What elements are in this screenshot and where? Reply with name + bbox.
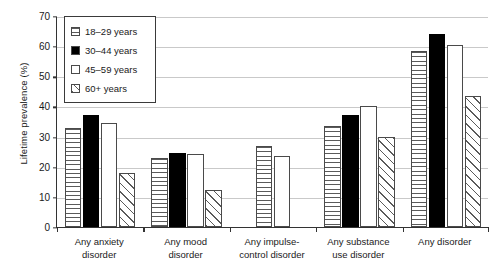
- legend-swatch-icon: [71, 46, 80, 55]
- y-tick-label: 0: [44, 223, 50, 233]
- bar: [119, 173, 136, 227]
- x-axis-label-line: Any anxiety: [56, 236, 142, 249]
- y-tick-label: 30: [39, 133, 50, 143]
- x-axis-labels: Any anxietydisorderAny mooddisorderAny i…: [56, 236, 488, 276]
- bar-chart: Lifetime prevalence (%) 010203040506070 …: [0, 0, 495, 276]
- x-axis-label-line: Any impulse-: [229, 236, 315, 249]
- x-axis-category-label: Any anxietydisorder: [56, 236, 142, 261]
- y-tick-label: 60: [39, 42, 50, 52]
- x-axis-label-line: control disorder: [229, 249, 315, 262]
- y-tick-label: 10: [39, 193, 50, 203]
- x-axis-separator-tick: [488, 227, 489, 232]
- legend-item-label: 18–29 years: [85, 27, 137, 37]
- x-axis-label-line: use disorder: [315, 249, 401, 262]
- bar: [342, 115, 359, 227]
- bar: [411, 51, 428, 227]
- legend-item-label: 45–59 years: [85, 65, 137, 75]
- legend-swatch-icon: [71, 27, 80, 36]
- y-tick-label: 70: [39, 12, 50, 22]
- bar: [151, 158, 168, 227]
- x-axis-label-line: Any mood: [142, 236, 228, 249]
- bar: [274, 156, 291, 227]
- legend-swatch-icon: [71, 84, 80, 93]
- bar: [187, 154, 204, 227]
- x-axis-category-label: Any mooddisorder: [142, 236, 228, 261]
- bar: [378, 137, 395, 227]
- bar: [169, 153, 186, 227]
- legend-item-label: 60+ years: [85, 84, 127, 94]
- x-axis-category-label: Any disorder: [402, 236, 488, 249]
- x-axis-category-label: Any impulse-control disorder: [229, 236, 315, 261]
- x-axis-label-line: Any disorder: [402, 236, 488, 249]
- x-axis-separator-tick: [143, 227, 144, 232]
- bar: [465, 96, 482, 227]
- x-axis-separator-tick: [57, 227, 58, 232]
- legend-item-label: 30–44 years: [85, 46, 137, 56]
- legend-item: 30–44 years: [71, 41, 150, 60]
- bar: [205, 190, 222, 227]
- x-axis-label-line: disorder: [142, 249, 228, 262]
- legend-swatch-icon: [71, 65, 80, 74]
- bar: [447, 45, 464, 227]
- x-axis-separator-tick: [403, 227, 404, 232]
- x-axis-separator-tick: [316, 227, 317, 232]
- legend-item: 60+ years: [71, 79, 150, 98]
- x-axis-separator-tick: [230, 227, 231, 232]
- x-axis-category-label: Any substanceuse disorder: [315, 236, 401, 261]
- bar: [101, 123, 118, 227]
- bar: [360, 106, 377, 227]
- y-tick-label: 50: [39, 72, 50, 82]
- bar: [256, 146, 273, 227]
- legend: 18–29 years30–44 years45–59 years60+ yea…: [64, 16, 156, 103]
- bar: [65, 128, 82, 227]
- bar: [83, 115, 100, 227]
- bar: [429, 34, 446, 227]
- bar: [324, 126, 341, 227]
- y-tick-label: 40: [39, 102, 50, 112]
- legend-item: 45–59 years: [71, 60, 150, 79]
- y-tick-label: 20: [39, 163, 50, 173]
- x-axis-label-line: Any substance: [315, 236, 401, 249]
- x-axis-label-line: disorder: [56, 249, 142, 262]
- y-axis-title: Lifetime prevalence (%): [18, 29, 29, 199]
- legend-item: 18–29 years: [71, 22, 150, 41]
